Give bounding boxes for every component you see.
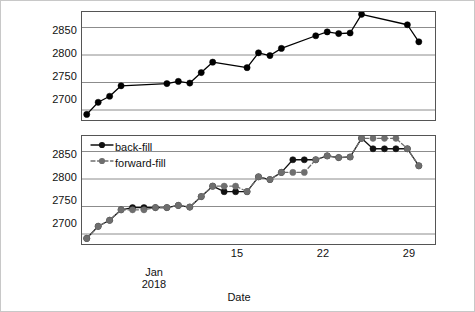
bottom-ytick-2700: 2700 <box>27 217 77 229</box>
top-plot-area <box>81 11 436 121</box>
top-ytick-2850: 2850 <box>27 24 77 36</box>
xtick-22: 22 <box>311 247 335 259</box>
bottom-ytick-2750: 2750 <box>27 194 77 206</box>
top-ytick-2800: 2800 <box>27 47 77 59</box>
period-caption-year: 2018 <box>129 278 179 290</box>
top-ytick-2750: 2750 <box>27 70 77 82</box>
xtick-15: 15 <box>225 247 249 259</box>
top-ytick-2700: 2700 <box>27 93 77 105</box>
top-panel <box>81 11 436 121</box>
legend-label-back-fill: back-fill <box>115 141 152 153</box>
x-axis-title: Date <box>209 291 269 303</box>
bottom-ytick-2850: 2850 <box>27 148 77 160</box>
period-caption-month: Jan <box>129 266 179 278</box>
bottom-ytick-2800: 2800 <box>27 171 77 183</box>
chart-figure: 2850 2800 2750 2700 2850 2800 2750 2700 … <box>0 0 475 312</box>
legend-label-forward-fill: forward-fill <box>115 157 166 169</box>
xtick-29: 29 <box>397 247 421 259</box>
